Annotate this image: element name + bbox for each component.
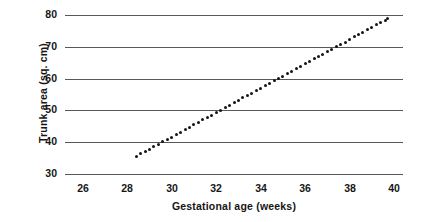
data-point [246, 94, 249, 97]
data-point [330, 48, 333, 51]
data-point [233, 101, 236, 104]
data-point [304, 62, 307, 65]
y-axis-title: Trunk area (sq. cm) [37, 0, 49, 188]
x-axis-title: Gestational age (weeks) [65, 200, 403, 212]
gridline-y-60 [65, 79, 403, 80]
data-point [273, 79, 276, 82]
data-point [339, 43, 342, 46]
gridline-y-30 [65, 174, 403, 175]
data-point [379, 21, 382, 24]
x-tick-label: 34 [246, 182, 276, 194]
data-point [170, 136, 173, 139]
data-point [148, 148, 151, 151]
data-point [210, 114, 213, 117]
data-point [237, 99, 240, 102]
data-point [386, 17, 389, 20]
data-point [215, 111, 218, 114]
data-point [313, 57, 316, 60]
data-point [348, 38, 351, 41]
x-tick-label: 38 [335, 182, 365, 194]
data-point [366, 28, 369, 31]
plot-area: 3040506070802628303234363840 [0, 0, 421, 222]
chart-figure: 3040506070802628303234363840 Trunk area … [0, 0, 421, 222]
data-point [290, 70, 293, 73]
data-point [241, 96, 244, 99]
data-point [299, 65, 302, 68]
data-point [295, 67, 298, 70]
data-point [281, 75, 284, 78]
data-point [139, 152, 142, 155]
data-point [224, 106, 227, 109]
data-point [286, 72, 289, 75]
data-point [357, 33, 360, 36]
data-point [250, 92, 253, 95]
data-point [264, 84, 267, 87]
gridline-y-50 [65, 110, 403, 111]
x-tick-label: 28 [112, 182, 142, 194]
gridline-y-40 [65, 142, 403, 143]
data-point [206, 116, 209, 119]
x-tick-label: 26 [68, 182, 98, 194]
data-point [188, 126, 191, 129]
data-point [326, 50, 329, 53]
gridline-y-70 [65, 47, 403, 48]
data-point [255, 89, 258, 92]
data-point [192, 123, 195, 126]
data-point [353, 35, 356, 38]
data-point [317, 55, 320, 58]
data-point [321, 53, 324, 56]
data-point [201, 118, 204, 121]
data-point [228, 104, 231, 107]
gridline-y-80 [65, 15, 403, 16]
data-point [308, 60, 311, 63]
x-tick-label: 30 [157, 182, 187, 194]
data-point [157, 143, 160, 146]
data-point [175, 133, 178, 136]
data-point [219, 109, 222, 112]
data-point [184, 128, 187, 131]
data-point [144, 150, 147, 153]
data-point [361, 31, 364, 34]
data-point [344, 41, 347, 44]
x-tick-label: 36 [290, 182, 320, 194]
data-point [166, 138, 169, 141]
data-point [259, 87, 262, 90]
data-point [375, 23, 378, 26]
data-point [179, 131, 182, 134]
x-tick-label: 32 [201, 182, 231, 194]
x-tick-label: 40 [379, 182, 409, 194]
data-point [370, 26, 373, 29]
data-point [152, 145, 155, 148]
data-point [268, 82, 271, 85]
data-point [197, 121, 200, 124]
data-point [135, 155, 138, 158]
